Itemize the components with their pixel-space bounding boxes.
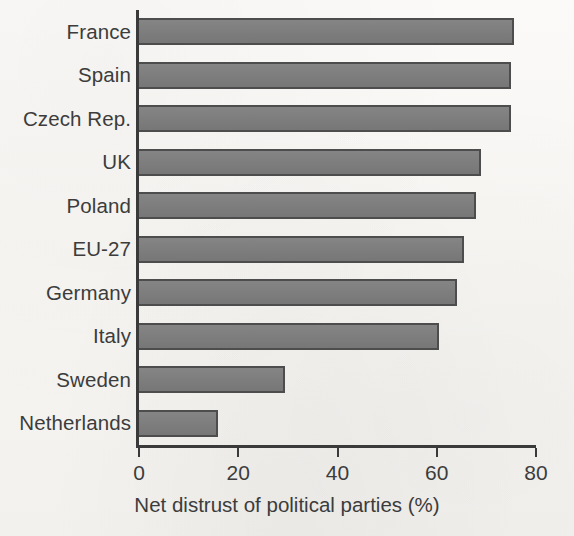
category-label: Sweden: [56, 370, 131, 391]
plot-area: FranceSpainCzech Rep.UKPolandEU-27German…: [0, 0, 574, 536]
x-axis-title: Net distrust of political parties (%): [0, 495, 574, 516]
x-axis-tick-label: 0: [133, 462, 145, 483]
category-label: France: [67, 22, 131, 43]
category-label: EU-27: [72, 239, 131, 260]
bar-shading: [139, 238, 462, 261]
bar: [139, 323, 439, 350]
bar-chart-figure: FranceSpainCzech Rep.UKPolandEU-27German…: [0, 0, 574, 536]
bar: [139, 366, 285, 393]
category-label: Italy: [93, 326, 131, 347]
x-axis-tick: [138, 448, 140, 457]
bar: [139, 105, 511, 132]
x-axis-tick-label: 20: [227, 462, 250, 483]
x-axis-tick-label: 60: [425, 462, 448, 483]
bar-shading: [139, 194, 474, 217]
category-label: Czech Rep.: [23, 109, 131, 130]
x-axis-tick-label: 40: [326, 462, 349, 483]
bar-shading: [139, 281, 455, 304]
bar: [139, 279, 457, 306]
bar: [139, 62, 511, 89]
category-label: Spain: [78, 65, 131, 86]
bar: [139, 149, 481, 176]
x-axis-tick: [436, 448, 438, 457]
bar-shading: [139, 151, 479, 174]
y-axis-line: [136, 10, 139, 445]
category-label: Germany: [46, 283, 131, 304]
x-axis-tick: [535, 448, 537, 457]
x-axis-tick-label: 80: [524, 462, 547, 483]
bar-shading: [139, 412, 216, 435]
bar-shading: [139, 64, 509, 87]
category-label: UK: [102, 152, 131, 173]
bar-shading: [139, 368, 283, 391]
category-label: Netherlands: [19, 413, 131, 434]
bar-shading: [139, 325, 437, 348]
bar-shading: [139, 107, 509, 130]
category-label: Poland: [67, 196, 131, 217]
bar: [139, 236, 464, 263]
x-axis-tick: [337, 448, 339, 457]
bar-shading: [139, 20, 512, 43]
bar: [139, 18, 514, 45]
x-axis-tick: [237, 448, 239, 457]
bar: [139, 192, 476, 219]
bar: [139, 410, 218, 437]
